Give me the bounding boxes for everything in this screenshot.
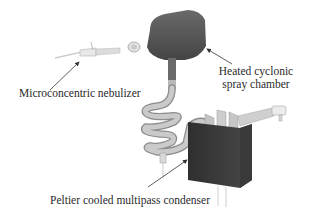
chamber-label-line2: spray chamber (203, 78, 309, 91)
condenser-label: Peltier cooled multipass condenser (50, 194, 210, 207)
nebulizer (55, 42, 140, 58)
chamber-label: Heated cyclonic spray chamber (203, 65, 309, 91)
apparatus-diagram: Microconcentric nebulizer Heated cycloni… (0, 0, 311, 217)
nebulizer-pointer-arrow (50, 62, 79, 90)
apparatus-illustration (0, 0, 311, 217)
chamber-label-line1: Heated cyclonic (203, 65, 309, 78)
nebulizer-label: Microconcentric nebulizer (19, 87, 141, 100)
chamber-pointer-arrow (207, 49, 232, 64)
condenser-pointer-arrow (148, 160, 187, 187)
spray-chamber (147, 10, 206, 90)
